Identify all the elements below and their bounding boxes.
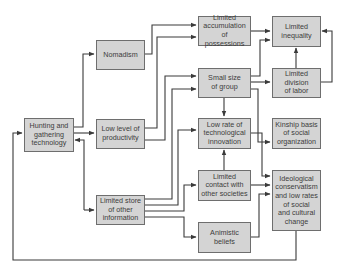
node-label: Low rate of technological innovation <box>204 121 246 147</box>
node-kinship-basis: Kinship basis of social organization <box>272 118 321 149</box>
node-label: Ideological conservatism and low rates o… <box>275 175 318 227</box>
node-limited-contact: Limited contact with other societies <box>198 170 251 201</box>
node-nomadism: Nomadism <box>96 40 145 70</box>
node-low-level-of-productivity: Low level of productivity <box>96 119 145 149</box>
node-low-rate-of-innovation: Low rate of technological innovation <box>198 118 251 149</box>
node-hunting-gathering-technology: Hunting and gathering technology <box>24 118 74 152</box>
node-limited-inequality: Limited inequality <box>272 16 321 47</box>
node-label: Limited accumulation of possessions <box>201 14 248 48</box>
node-small-size-of-group: Small size of group <box>198 68 251 98</box>
node-label: Limited contact with other societies <box>201 173 247 199</box>
node-limited-accumulation: Limited accumulation of possessions <box>198 16 251 46</box>
node-label: Nomadism <box>103 51 137 60</box>
node-label: Animistic beliefs <box>210 229 239 246</box>
causal-diagram: Hunting and gathering technology Nomadis… <box>0 0 341 271</box>
node-limited-store-of-information: Limited store of other information <box>96 195 145 225</box>
node-label: Small size of group <box>208 74 241 91</box>
node-label: Low level of productivity <box>102 125 140 142</box>
node-label: Limited store of other information <box>100 197 141 223</box>
node-label: Kinship basis of social organization <box>275 121 317 147</box>
node-animistic-beliefs: Animistic beliefs <box>198 222 251 253</box>
node-label: Hunting and gathering technology <box>30 122 69 148</box>
node-limited-division-of-labor: Limited division of labor <box>272 68 321 98</box>
node-ideological-conservatism: Ideological conservatism and low rates o… <box>272 170 321 231</box>
node-label: Limited inequality <box>281 23 311 40</box>
node-label: Limited division of labor <box>285 70 309 96</box>
